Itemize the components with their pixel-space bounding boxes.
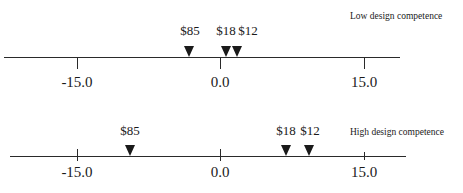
tick-label-15-high: 15.0: [351, 164, 377, 181]
high-competence-panel: High design competence -15.0 0.0 15.0 $8…: [0, 100, 463, 193]
panel-title-high: High design competence: [350, 127, 444, 137]
marker-triangle-85-high: [125, 145, 135, 156]
tick-label-minus-15-high: -15.0: [61, 164, 92, 181]
marker-label-85-low: $85: [180, 23, 200, 39]
tick-label-0-high: 0.0: [211, 164, 230, 181]
axis-line-high: [10, 156, 406, 157]
tick-0-low: [220, 58, 221, 69]
tick-minus-15-high: [77, 149, 78, 161]
marker-triangle-12-low: [232, 46, 242, 57]
low-competence-panel: Low design competence -15.0 0.0 15.0 $85…: [0, 0, 463, 100]
tick-label-15-low: 15.0: [351, 74, 377, 91]
marker-triangle-85-low: [184, 46, 194, 57]
tick-label-minus-15-low: -15.0: [61, 74, 92, 91]
tick-label-0-low: 0.0: [211, 74, 230, 91]
panel-title-low: Low design competence: [350, 11, 442, 21]
marker-label-18-high: $18: [276, 123, 296, 139]
tick-0-high: [220, 149, 221, 161]
axis-line-low: [4, 57, 400, 58]
marker-triangle-18-high: [281, 145, 291, 156]
tick-15-high: [364, 152, 365, 160]
marker-label-85-high: $85: [120, 123, 140, 139]
tick-15-low: [364, 58, 365, 69]
marker-label-12-low: $12: [238, 23, 258, 39]
marker-triangle-12-high: [304, 145, 314, 156]
tick-minus-15-low: [77, 58, 78, 69]
marker-triangle-18-low: [221, 46, 231, 57]
marker-label-18-low: $18: [216, 23, 236, 39]
marker-label-12-high: $12: [300, 123, 320, 139]
